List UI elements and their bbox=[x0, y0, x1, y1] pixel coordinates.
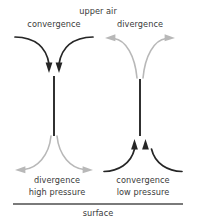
lower-left-divergence-label: divergence bbox=[34, 175, 80, 185]
lower-right-convergence-label: convergence bbox=[116, 175, 169, 185]
lower-right-arrowhead-right bbox=[142, 139, 149, 150]
lower-right-inflow-curve-right bbox=[152, 149, 183, 172]
lower-right-convergence-arrows bbox=[104, 139, 182, 172]
upper-left-arrowhead-right bbox=[56, 63, 63, 74]
lower-left-outflow-curve-left bbox=[24, 136, 51, 170]
lower-right-arrowhead-left bbox=[131, 139, 138, 150]
lower-left-arrowhead-left bbox=[15, 166, 25, 173]
upper-right-outflow-curve-right bbox=[143, 39, 166, 79]
upper-left-convergence-arrows bbox=[15, 37, 93, 73]
upper-right-arrowhead-left bbox=[105, 34, 115, 41]
upper-right-divergence-arrows bbox=[105, 34, 175, 78]
upper-right-divergence-label: divergence bbox=[117, 19, 163, 29]
upper-left-convergence-label: convergence bbox=[27, 19, 80, 29]
upper-right-arrowhead-right bbox=[165, 34, 175, 41]
atmospheric-circulation-diagram: upper air convergence divergence diverge… bbox=[0, 0, 197, 221]
upper-left-arrowhead-left bbox=[46, 63, 53, 74]
lower-left-divergence-arrows bbox=[15, 136, 93, 173]
upper-left-inflow-curve-left bbox=[15, 37, 49, 64]
high-pressure-label: high pressure bbox=[29, 187, 85, 197]
upper-right-outflow-curve-left bbox=[114, 39, 137, 79]
upper-air-label: upper air bbox=[79, 6, 117, 16]
low-pressure-label: low pressure bbox=[117, 187, 170, 197]
lower-right-inflow-curve-left bbox=[104, 149, 135, 172]
lower-left-arrowhead-right bbox=[83, 166, 93, 173]
surface-label: surface bbox=[83, 208, 114, 218]
upper-left-inflow-curve-right bbox=[59, 37, 93, 64]
lower-left-outflow-curve-right bbox=[57, 136, 84, 170]
